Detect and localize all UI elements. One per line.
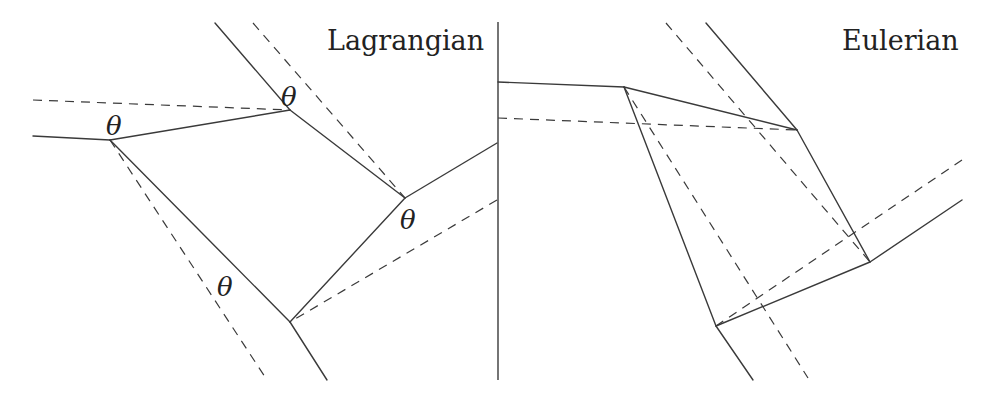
eulerian-panel: Eulerian [498, 23, 962, 380]
dashed-edge [716, 160, 962, 326]
eulerian-dashed-edges [498, 23, 962, 378]
solid-edge [498, 82, 624, 87]
solid-edge [33, 136, 110, 140]
lagrangian-title: Lagrangian [327, 25, 484, 56]
solid-edge [290, 198, 405, 322]
dashed-edge [110, 140, 267, 380]
solid-edge [706, 23, 797, 130]
theta-label: θ [400, 205, 416, 235]
lagrangian-dashed-edges [33, 23, 497, 380]
solid-edge [215, 23, 290, 110]
solid-edge [797, 130, 870, 262]
dashed-edge [624, 87, 808, 378]
dashed-edge [666, 23, 870, 262]
solid-edge [716, 262, 870, 326]
solid-edge [290, 322, 327, 380]
lagrangian-solid-edges [33, 23, 497, 380]
solid-edge [405, 143, 497, 198]
solid-edge [110, 140, 290, 322]
lagrangian-panel: θθθθ Lagrangian [33, 23, 497, 380]
dashed-edge [290, 200, 497, 322]
eulerian-solid-edges [498, 23, 962, 380]
theta-label: θ [106, 111, 122, 141]
solid-edge [624, 87, 716, 326]
eulerian-title: Eulerian [842, 25, 959, 56]
solid-edge [290, 110, 405, 198]
theta-label: θ [281, 82, 297, 112]
dashed-edge [33, 100, 290, 110]
solid-edge [716, 326, 753, 380]
lagrangian-eulerian-diagram: θθθθ Lagrangian Eulerian [0, 0, 992, 399]
solid-edge [110, 110, 290, 140]
solid-edge [870, 200, 962, 262]
theta-label: θ [217, 272, 233, 302]
